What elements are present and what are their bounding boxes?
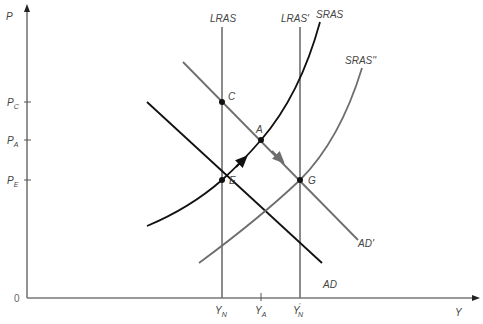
x-axis-label: Y [455,307,463,318]
tick-label-ya: YA [255,305,267,318]
ad-label: AD [322,279,337,290]
sras-double-prime-label: SRAS'' [345,55,377,66]
x-axis-arrow-icon [472,295,480,301]
tick-label-pe: PE [7,175,19,188]
ad-prime-label: AD' [357,238,375,249]
lras-label: LRAS [210,13,236,24]
ad-prime-curve [183,62,358,240]
origin-label: 0 [14,293,20,304]
x-tick-ya: YA [255,293,267,318]
x-tick-yn-prime: Y'N [293,302,304,318]
point-c-label: C [228,91,236,102]
y-axis-label: P [6,11,13,22]
sras-curve [147,22,320,226]
y-axis [24,4,30,298]
tick-label-yn: YN [215,305,228,318]
point-a: A [255,124,264,143]
ad-prime-arrow-icon [272,151,281,160]
sras-double-prime-curve [199,68,362,263]
y-axis-arrow-icon [24,4,30,12]
tick-label-yn-prime: Y'N [293,302,304,318]
point-a-label: A [255,124,263,135]
lras-prime-label: LRAS' [281,13,310,24]
x-tick-yn: YN [215,305,228,318]
sras-label: SRAS [316,9,344,20]
point-e-label: E [229,175,236,186]
point-g-label: G [308,175,316,186]
tick-label-pc: PC [7,97,20,110]
as-ad-diagram: P Y 0 PC PA PE YN YA Y'N LRAS LRAS' AD' … [0,0,483,324]
tick-label-pa: PA [7,135,19,148]
sras-arrow-icon [236,159,244,167]
x-axis [27,295,480,301]
